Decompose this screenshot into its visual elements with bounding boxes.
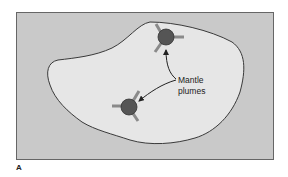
- diagram-figure: Mantle plumes A: [0, 0, 288, 177]
- diagram-canvas: Mantle plumes: [0, 0, 288, 177]
- annotation-line-2: plumes: [178, 86, 205, 96]
- annotation-line-1: Mantle: [178, 75, 204, 85]
- panel-label: A: [16, 163, 22, 172]
